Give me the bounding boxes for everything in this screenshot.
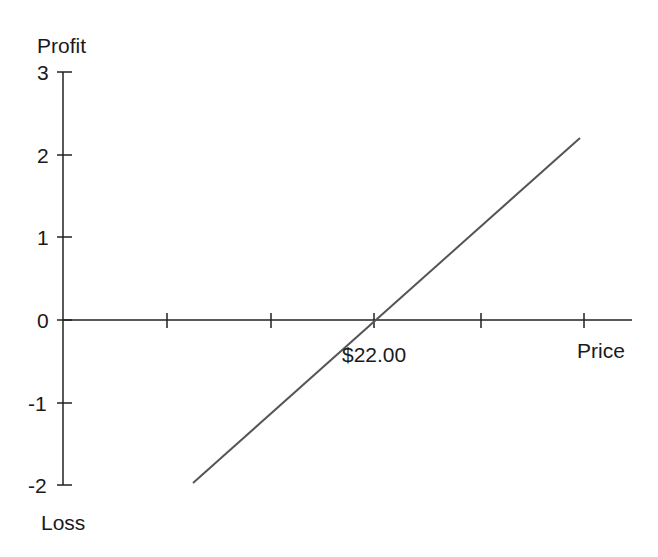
profit-loss-line bbox=[193, 138, 580, 483]
y-tick-label-neg1: -1 bbox=[28, 393, 47, 414]
y-tick-label-0: 0 bbox=[37, 310, 49, 331]
y-tick-label-1: 1 bbox=[37, 227, 49, 248]
x-tick-label-break-even: $22.00 bbox=[342, 344, 406, 365]
y-axis-title-loss: Loss bbox=[41, 512, 85, 533]
y-ticks bbox=[57, 72, 72, 485]
chart-canvas bbox=[0, 0, 658, 557]
x-axis-title-price: Price bbox=[577, 340, 625, 361]
y-axis-title-profit: Profit bbox=[37, 35, 86, 56]
y-tick-label-3: 3 bbox=[37, 62, 49, 83]
y-tick-label-neg2: -2 bbox=[28, 475, 47, 496]
y-tick-label-2: 2 bbox=[37, 145, 49, 166]
